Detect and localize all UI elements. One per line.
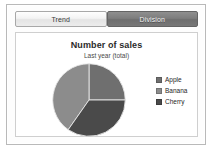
legend-label-banana: Banana xyxy=(165,87,187,95)
pie-chart xyxy=(52,63,126,137)
legend-swatch-banana xyxy=(156,88,162,94)
tab-trend[interactable]: Trend xyxy=(15,11,107,27)
chart-title: Number of sales xyxy=(16,40,197,50)
app-window: Trend Division Number of sales Last year… xyxy=(6,4,206,145)
tab-trend-label: Trend xyxy=(51,16,70,23)
legend-label-cherry: Cherry xyxy=(165,98,185,106)
legend-item-banana[interactable]: Banana xyxy=(156,86,204,96)
chart-panel: Number of sales Last year (total) Apple … xyxy=(15,32,198,137)
legend-swatch-apple xyxy=(156,77,162,83)
legend-label-apple: Apple xyxy=(165,76,182,84)
chart-legend: Apple Banana Cherry xyxy=(156,75,204,108)
tab-bar: Trend Division xyxy=(15,11,198,27)
legend-item-apple[interactable]: Apple xyxy=(156,75,204,85)
pie-chart-svg xyxy=(52,63,126,137)
pie-slice-group xyxy=(53,64,126,137)
legend-swatch-cherry xyxy=(156,99,162,105)
pie-slice-apple[interactable] xyxy=(89,64,125,100)
tab-division[interactable]: Division xyxy=(107,11,199,27)
chart-subtitle: Last year (total) xyxy=(16,52,197,59)
tab-division-label: Division xyxy=(140,16,165,23)
legend-item-cherry[interactable]: Cherry xyxy=(156,97,204,107)
